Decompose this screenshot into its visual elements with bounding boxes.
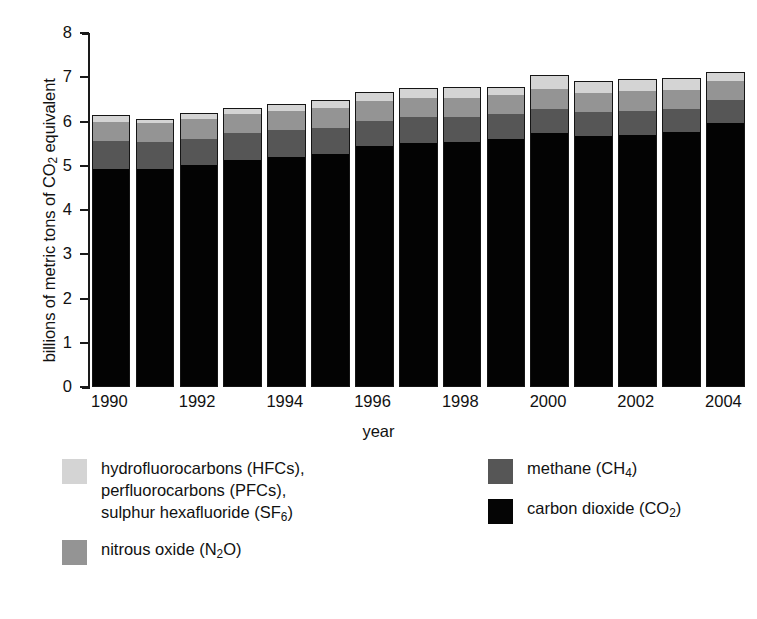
legend-swatch-fgas [62, 459, 87, 484]
bar-segment-co2-1999 [488, 139, 525, 386]
x-axis-label-1996: 1996 [338, 392, 408, 411]
bar-1990[interactable] [92, 115, 131, 387]
y-tick-3 [80, 253, 89, 255]
bar-segment-co2-2004 [707, 123, 744, 386]
y-tick-5 [80, 165, 89, 167]
x-axis-title: year [0, 422, 757, 441]
bar-2000[interactable] [530, 75, 569, 387]
bar-2003[interactable] [662, 78, 701, 387]
bar-segment-ch4-2001 [575, 112, 612, 136]
x-axis-label-1998: 1998 [425, 392, 495, 411]
bar-segment-fgas-1998 [444, 88, 481, 98]
bar-segment-ch4-1992 [181, 139, 218, 166]
bar-segment-ch4-1993 [224, 133, 261, 159]
legend-item-fgas[interactable]: hydrofluorocarbons (HFCs),perfluorocarbo… [62, 458, 482, 525]
bar-2004[interactable] [706, 72, 745, 387]
bar-2001[interactable] [574, 81, 613, 387]
y-tick-6 [80, 121, 89, 123]
x-axis-label-1992: 1992 [162, 392, 232, 411]
bar-segment-co2-1990 [93, 169, 130, 386]
bar-segment-co2-2002 [619, 135, 656, 386]
x-axis-label-2002: 2002 [601, 392, 671, 411]
legend-item-ch4[interactable]: methane (CH4) [488, 458, 753, 484]
bar-segment-ch4-1998 [444, 117, 481, 142]
bar-segment-n2o-2003 [663, 90, 700, 109]
bar-segment-co2-1994 [268, 157, 305, 386]
bar-segment-fgas-2002 [619, 80, 656, 91]
y-tick-label-1: 1 [48, 334, 72, 351]
bar-segment-n2o-1994 [268, 111, 305, 130]
y-tick-label-2: 2 [48, 290, 72, 307]
legend-item-co2-label: carbon dioxide (CO2) [527, 498, 681, 521]
bar-1991[interactable] [136, 119, 175, 387]
bar-1996[interactable] [355, 92, 394, 387]
legend-label-line: perfluorocarbons (PFCs), [101, 480, 305, 502]
bar-segment-co2-2000 [531, 133, 568, 386]
y-tick-0 [80, 386, 89, 388]
x-axis-label-2000: 2000 [513, 392, 583, 411]
legend-item-co2[interactable]: carbon dioxide (CO2) [488, 498, 753, 524]
y-tick-4 [80, 209, 89, 211]
bar-segment-co2-1995 [312, 154, 349, 386]
bar-segment-n2o-1991 [137, 123, 174, 142]
bar-segment-n2o-1990 [93, 122, 130, 141]
legend-item-fgas-label: hydrofluorocarbons (HFCs),perfluorocarbo… [101, 458, 305, 525]
bar-1998[interactable] [443, 87, 482, 387]
bar-segment-fgas-1997 [400, 89, 437, 98]
bar-segment-n2o-1998 [444, 98, 481, 117]
bar-1994[interactable] [267, 104, 306, 387]
bar-segment-n2o-2000 [531, 89, 568, 109]
bar-1995[interactable] [311, 100, 350, 387]
bar-segment-ch4-1999 [488, 114, 525, 139]
legend-label-line: hydrofluorocarbons (HFCs), [101, 458, 305, 480]
bar-segment-fgas-1995 [312, 101, 349, 108]
bar-segment-n2o-1995 [312, 108, 349, 128]
bar-segment-ch4-1991 [137, 142, 174, 169]
bar-segment-co2-1998 [444, 142, 481, 386]
x-axis-label-1990: 1990 [74, 392, 144, 411]
x-axis-label-2004: 2004 [688, 392, 757, 411]
bar-series-group [90, 33, 748, 387]
legend-label-line: carbon dioxide (CO2) [527, 498, 681, 521]
bar-1997[interactable] [399, 88, 438, 387]
y-tick-label-6: 6 [48, 113, 72, 130]
y-tick-label-5: 5 [48, 157, 72, 174]
bar-segment-co2-1997 [400, 143, 437, 386]
bar-segment-fgas-2001 [575, 82, 612, 93]
legend-swatch-co2 [488, 499, 513, 524]
bar-segment-fgas-2004 [707, 73, 744, 80]
bar-segment-co2-2001 [575, 136, 612, 386]
y-tick-8 [80, 32, 89, 34]
bar-segment-n2o-1996 [356, 101, 393, 120]
bar-segment-ch4-2004 [707, 100, 744, 123]
bar-segment-n2o-1997 [400, 98, 437, 117]
bar-segment-ch4-1990 [93, 141, 130, 168]
legend-swatch-ch4 [488, 459, 513, 484]
y-tick-2 [80, 298, 89, 300]
bar-segment-n2o-2002 [619, 91, 656, 110]
bar-segment-fgas-2000 [531, 76, 568, 89]
bar-segment-co2-1996 [356, 146, 393, 386]
bar-segment-n2o-1992 [181, 119, 218, 138]
y-tick-label-0: 0 [48, 378, 72, 395]
bar-segment-n2o-2004 [707, 81, 744, 100]
bar-segment-ch4-2002 [619, 111, 656, 135]
bar-segment-fgas-2003 [663, 79, 700, 90]
bar-segment-n2o-2001 [575, 93, 612, 112]
y-tick-1 [80, 342, 89, 344]
bar-segment-co2-2003 [663, 132, 700, 386]
bar-1999[interactable] [487, 87, 526, 387]
bar-2002[interactable] [618, 79, 657, 387]
bar-1993[interactable] [223, 108, 262, 387]
bar-1992[interactable] [180, 113, 219, 387]
bar-segment-n2o-1999 [488, 95, 525, 114]
legend-label-line: methane (CH4) [527, 458, 637, 481]
bar-segment-co2-1991 [137, 169, 174, 386]
x-axis-label-1994: 1994 [250, 392, 320, 411]
bar-segment-ch4-1997 [400, 117, 437, 142]
legend-item-ch4-label: methane (CH4) [527, 458, 637, 481]
legend-item-n2o[interactable]: nitrous oxide (N2O) [62, 539, 482, 565]
bar-segment-ch4-1994 [268, 130, 305, 156]
y-tick-label-4: 4 [48, 201, 72, 218]
chart-legend: hydrofluorocarbons (HFCs),perfluorocarbo… [0, 458, 757, 608]
